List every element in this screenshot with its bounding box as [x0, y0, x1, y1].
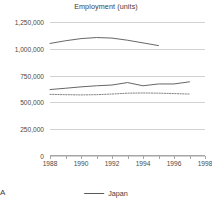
gridline	[50, 22, 205, 23]
x-tick	[159, 156, 160, 159]
x-tick	[112, 156, 113, 159]
series-lines	[50, 22, 205, 156]
gridline	[50, 102, 205, 103]
figure-corner-label: A	[0, 188, 6, 197]
x-tick-label: 1988	[43, 160, 58, 167]
legend-line-swatch-japan	[84, 193, 104, 194]
chart-title: Employment (units)	[0, 2, 212, 11]
y-tick-label: 1,000,000	[15, 45, 44, 52]
x-tick-label: 1990	[74, 160, 89, 167]
x-tick	[128, 156, 129, 159]
y-tick-label: 250,000	[20, 126, 44, 133]
plot-area	[50, 22, 205, 156]
chart-legend: Japan	[0, 186, 212, 203]
gridline	[50, 129, 205, 130]
legend-entry-japan: Japan	[84, 189, 128, 198]
y-axis-tick-labels: 0250,000500,000750,0001,000,0001,250,000	[0, 22, 48, 156]
y-tick-label: 1,250,000	[15, 19, 44, 26]
x-tick	[50, 156, 51, 159]
gridline	[50, 76, 205, 77]
x-tick	[66, 156, 67, 159]
series-line	[50, 93, 190, 95]
x-tick-label: 1998	[198, 160, 212, 167]
x-tick-label: 1994	[136, 160, 151, 167]
gridline	[50, 49, 205, 50]
y-tick-label: 750,000	[20, 72, 44, 79]
x-axis-tick-labels: 198819901992199419961998	[0, 160, 212, 174]
series-line	[50, 82, 190, 90]
x-tick	[190, 156, 191, 159]
x-tick	[81, 156, 82, 159]
x-tick	[97, 156, 98, 159]
x-tick	[205, 156, 206, 159]
x-tick-label: 1996	[167, 160, 182, 167]
x-tick-label: 1992	[105, 160, 120, 167]
y-tick-label: 0	[40, 153, 44, 160]
y-tick-label: 500,000	[20, 99, 44, 106]
series-line	[50, 38, 159, 46]
x-tick	[174, 156, 175, 159]
legend-label-japan: Japan	[108, 189, 128, 198]
chart-figure: Employment (units) 0250,000500,000750,00…	[0, 0, 212, 203]
x-tick	[143, 156, 144, 159]
